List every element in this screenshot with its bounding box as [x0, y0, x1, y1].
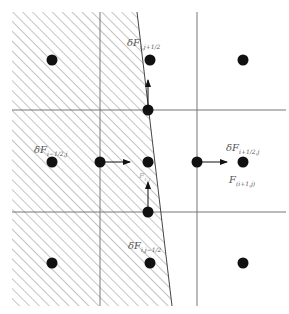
- label-flux-left: δFi−1/2,j: [34, 145, 67, 157]
- node-dot: [47, 55, 58, 66]
- node-dot: [47, 157, 58, 168]
- label-sub: i+1/2,j: [239, 148, 259, 155]
- label-flux-top: δFi,j+1/2: [127, 38, 160, 50]
- node-dot: [143, 157, 154, 168]
- node-dot: [143, 207, 154, 218]
- node-dot: [238, 157, 249, 168]
- label-sub: i,j+1/2: [140, 43, 160, 50]
- label-flux-right: δFi+1/2,j: [226, 143, 259, 155]
- label-main: δF: [226, 142, 239, 153]
- label-sub: i,j−1/2: [141, 246, 161, 253]
- label-main: δF: [128, 240, 141, 251]
- label-sub: i−1/2,j: [47, 150, 67, 157]
- node-dot: [143, 105, 154, 116]
- node-dot: [192, 157, 203, 168]
- label-sub: (i+1,j): [236, 180, 255, 187]
- label-main: δF: [127, 37, 140, 48]
- node-dot: [238, 55, 249, 66]
- label-flux-center: Fi,j: [139, 172, 150, 182]
- label-main: F: [229, 174, 236, 185]
- label-sub: i,j: [145, 175, 151, 182]
- node-dot: [238, 258, 249, 269]
- label-main: δF: [34, 144, 47, 155]
- label-flux-bottom: δFi,j−1/2: [128, 241, 161, 253]
- node-dot: [145, 55, 156, 66]
- label-flux-right-cell: F(i+1,j): [229, 175, 255, 187]
- node-dot: [95, 157, 106, 168]
- node-dot: [145, 258, 156, 269]
- node-dot: [47, 258, 58, 269]
